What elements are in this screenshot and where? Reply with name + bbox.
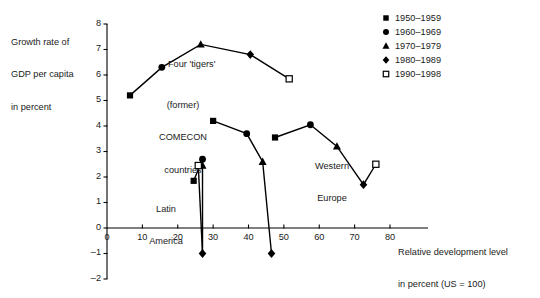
x-axis-title-line-2: in percent (US = 100) bbox=[398, 279, 508, 290]
y-tick-label: 5 bbox=[85, 94, 101, 105]
data-point-open-square bbox=[373, 161, 379, 167]
legend-label-2: 1970–1979 bbox=[395, 41, 441, 52]
x-tick-label: 60 bbox=[307, 232, 331, 243]
data-point-circle bbox=[158, 64, 165, 71]
x-tick-label: 0 bbox=[95, 232, 119, 243]
annotation-comecon: (former) COMECON countries bbox=[147, 78, 219, 197]
x-axis-title-line-1: Relative development level bbox=[398, 247, 508, 258]
data-point-diamond bbox=[383, 56, 390, 64]
x-tick-label: 50 bbox=[272, 232, 296, 243]
y-tick-label: –1 bbox=[85, 247, 101, 258]
y-axis-title: Growth rate of GDP per capita in percent bbox=[11, 15, 74, 134]
y-tick-label: 6 bbox=[85, 69, 101, 80]
data-point-square bbox=[383, 15, 388, 20]
annotation-four-tigers: Four 'tigers' bbox=[168, 59, 215, 70]
annotation-latin-america-line-1: Latin bbox=[140, 204, 192, 215]
annotation-latin-america: Latin America bbox=[140, 182, 192, 269]
data-point-circle bbox=[383, 29, 389, 35]
y-axis-title-line-3: in percent bbox=[11, 102, 74, 113]
legend-label-1: 1960–1969 bbox=[395, 27, 441, 38]
data-point-square bbox=[272, 134, 278, 140]
data-point-diamond bbox=[246, 50, 254, 59]
legend-label-4: 1990–1998 bbox=[395, 69, 441, 80]
y-tick-label: 7 bbox=[85, 43, 101, 54]
data-point-open-square bbox=[383, 71, 388, 76]
annotation-western-europe-line-2: Europe bbox=[306, 193, 358, 204]
data-point-triangle bbox=[382, 42, 389, 49]
legend-label-3: 1980–1989 bbox=[395, 55, 441, 66]
y-tick-label: 2 bbox=[85, 171, 101, 182]
x-tick-label: 30 bbox=[201, 232, 225, 243]
data-point-diamond bbox=[268, 249, 276, 258]
data-point-circle bbox=[243, 130, 250, 137]
x-tick-label: 80 bbox=[378, 232, 402, 243]
data-point-diamond bbox=[199, 249, 207, 258]
y-tick-label: 1 bbox=[85, 196, 101, 207]
figure: Growth rate of GDP per capita in percent… bbox=[0, 0, 540, 298]
data-point-circle bbox=[307, 121, 314, 128]
data-point-triangle bbox=[197, 40, 205, 47]
y-tick-label: 3 bbox=[85, 145, 101, 156]
x-tick-label: 20 bbox=[166, 232, 190, 243]
y-axis-title-line-2: GDP per capita bbox=[11, 69, 74, 80]
data-point-square bbox=[127, 92, 133, 98]
x-tick-label: 10 bbox=[130, 232, 154, 243]
y-tick-label: 0 bbox=[85, 222, 101, 233]
annotation-comecon-line-3: countries bbox=[147, 165, 219, 176]
y-tick-label: 4 bbox=[85, 120, 101, 131]
data-point-triangle bbox=[259, 158, 267, 165]
x-axis-title: Relative development level in percent (U… bbox=[398, 225, 508, 298]
x-tick-label: 70 bbox=[343, 232, 367, 243]
annotation-western-europe-line-1: Western bbox=[306, 161, 358, 172]
annotation-comecon-line-2: COMECON bbox=[147, 132, 219, 143]
annotation-comecon-line-1: (former) bbox=[147, 100, 219, 111]
x-tick-label: 40 bbox=[237, 232, 261, 243]
data-point-open-square bbox=[286, 76, 292, 82]
annotation-western-europe: Western Europe bbox=[306, 139, 358, 226]
legend-markers bbox=[382, 15, 389, 76]
y-tick-label: 8 bbox=[85, 18, 101, 29]
y-tick-label: –2 bbox=[85, 273, 101, 284]
legend-label-0: 1950–1959 bbox=[395, 13, 441, 24]
y-axis-title-line-1: Growth rate of bbox=[11, 37, 74, 48]
